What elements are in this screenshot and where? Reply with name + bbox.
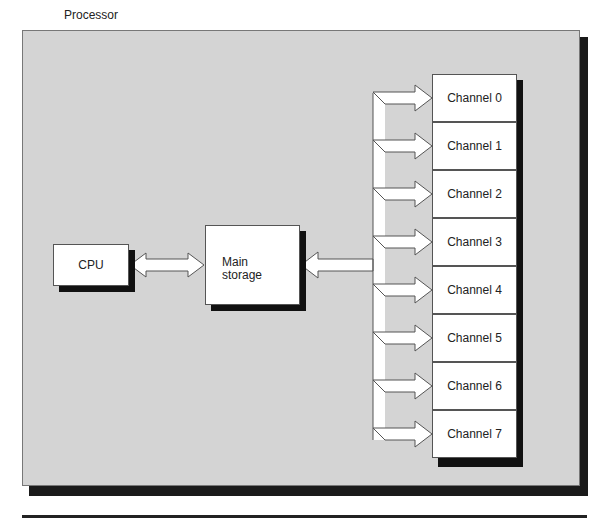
channel-0: Channel 0 <box>432 74 517 122</box>
main-storage-box: Main storage <box>205 225 300 305</box>
bus-storage-arrow <box>301 252 373 278</box>
channel-2: Channel 2 <box>432 170 517 218</box>
channel-3: Channel 3 <box>432 218 517 266</box>
main-storage-label-2: storage <box>222 269 299 282</box>
bottom-rule <box>22 515 587 518</box>
channel-4: Channel 4 <box>432 266 517 314</box>
cpu-storage-arrow <box>130 253 204 277</box>
channel-7: Channel 7 <box>432 410 517 458</box>
channel-6: Channel 6 <box>432 362 517 410</box>
channel-1: Channel 1 <box>432 122 517 170</box>
cpu-label: CPU <box>78 258 103 272</box>
channel-5: Channel 5 <box>432 314 517 362</box>
cpu-box: CPU <box>53 244 129 286</box>
